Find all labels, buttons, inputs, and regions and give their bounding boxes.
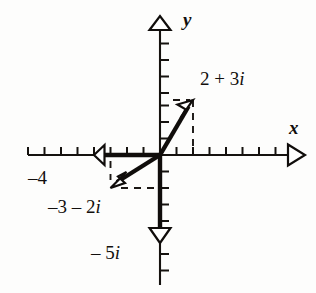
point-label-minus-5i-imaginary-unit: i [115, 242, 120, 263]
point-label-minus-4: –4 [28, 168, 47, 187]
point-label-minus-3-minus-2i: –3 – 2i [48, 197, 101, 216]
complex-plane-figure: y x 2 + 3i –4 –3 – 2i – 5i [0, 0, 316, 293]
x-axis-arrowhead-icon [288, 145, 305, 166]
argand-diagram-canvas [0, 0, 316, 293]
point-label-minus-3-minus-2i-imaginary-unit: i [96, 196, 101, 217]
x-axis-label: x [289, 118, 299, 137]
y-axis-label: y [183, 10, 191, 29]
point-label-2-plus-3i-real: 2 + 3 [200, 68, 239, 89]
vector-minus-5i [150, 155, 171, 243]
y-axis-arrowhead-icon [150, 16, 171, 30]
point-label-minus-3-minus-2i-real: –3 – 2 [48, 196, 96, 217]
vector-minus-4-arrowhead-icon [94, 145, 105, 165]
vector-minus-3-minus-2i [111, 155, 161, 188]
point-label-2-plus-3i-imaginary-unit: i [239, 68, 244, 89]
vector-2-plus-3i [160, 100, 193, 155]
vector-minus-3-minus-2i-shaft [117, 155, 160, 182]
point-label-minus-5i-real: – 5 [91, 242, 115, 263]
vector-minus-5i-arrowhead-icon [150, 228, 171, 243]
point-label-minus-5i: – 5i [91, 243, 120, 262]
point-label-2-plus-3i: 2 + 3i [200, 69, 245, 88]
